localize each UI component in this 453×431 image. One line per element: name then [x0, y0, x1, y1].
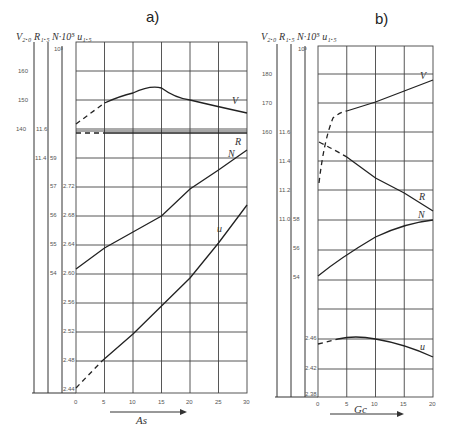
svg-text:170: 170: [262, 100, 273, 106]
svg-text:2.42: 2.42: [305, 365, 317, 371]
svg-text:160: 160: [18, 68, 29, 74]
svg-text:15: 15: [158, 399, 165, 405]
panel-a-axis-header: V₂.₀ R₁.₅ N·10⁵ u₁.₅: [16, 31, 92, 42]
svg-text:5: 5: [345, 401, 349, 407]
svg-text:56: 56: [50, 212, 57, 218]
svg-text:150: 150: [18, 97, 29, 103]
svg-text:0: 0: [74, 399, 78, 405]
svg-text:54: 54: [293, 274, 300, 280]
svg-text:u: u: [420, 341, 425, 352]
svg-text:57: 57: [50, 183, 57, 189]
svg-text:20: 20: [186, 399, 193, 405]
panel-b-xlabel: Gc: [354, 403, 367, 415]
panel-a-exponent: 10³: [54, 46, 63, 52]
panel-b-curve-v: V: [319, 70, 433, 183]
svg-text:140: 140: [16, 126, 27, 132]
svg-text:R: R: [234, 136, 241, 147]
svg-text:10: 10: [129, 399, 136, 405]
panel-b: b) V₂.₀ R₁.₅ N·10⁵ u₁.₅ 10³ 180 170 1: [261, 10, 436, 417]
svg-text:180: 180: [262, 71, 273, 77]
svg-text:11.0: 11.0: [279, 216, 291, 222]
svg-text:V: V: [232, 95, 240, 106]
svg-text:160: 160: [262, 129, 273, 135]
svg-text:N: N: [227, 148, 236, 159]
panel-b-title: b): [375, 10, 388, 27]
svg-text:15: 15: [400, 401, 407, 407]
svg-text:0: 0: [316, 401, 320, 407]
svg-text:2.64: 2.64: [63, 241, 75, 247]
svg-text:2.72: 2.72: [63, 183, 75, 189]
svg-text:20: 20: [429, 401, 436, 407]
svg-text:11.6: 11.6: [36, 126, 48, 132]
panel-a-title: a): [146, 8, 159, 25]
svg-text:54: 54: [50, 270, 57, 276]
svg-text:11.4: 11.4: [279, 158, 291, 164]
panel-a-grid: [76, 42, 247, 393]
panel-b-axis-header: V₂.₀ R₁.₅ N·10⁵ u₁.₅: [261, 31, 337, 42]
panel-a: a) V₂.₀ R₁.₅ N·10⁵ u₁.₅ 10³: [16, 8, 250, 426]
svg-text:55: 55: [50, 241, 57, 247]
svg-text:59: 59: [50, 155, 57, 161]
svg-text:5: 5: [102, 399, 106, 405]
svg-text:N: N: [417, 209, 426, 220]
svg-text:R: R: [418, 191, 425, 202]
svg-text:2.52: 2.52: [63, 328, 75, 334]
svg-text:2.48: 2.48: [63, 357, 75, 363]
svg-text:u: u: [217, 223, 222, 234]
svg-text:2.46: 2.46: [305, 335, 317, 341]
svg-text:2.44: 2.44: [63, 386, 75, 392]
svg-text:2.68: 2.68: [63, 212, 75, 218]
svg-text:56: 56: [293, 245, 300, 251]
panel-a-xlabel: As: [135, 414, 147, 426]
svg-text:2.38: 2.38: [305, 391, 317, 397]
svg-text:2.60: 2.60: [63, 270, 75, 276]
svg-text:2.56: 2.56: [63, 299, 75, 305]
svg-text:11.6: 11.6: [279, 129, 291, 135]
panel-b-grid: [318, 46, 433, 397]
figure-canvas: a) V₂.₀ R₁.₅ N·10⁵ u₁.₅ 10³: [0, 0, 453, 431]
svg-text:11.4: 11.4: [35, 155, 47, 161]
svg-text:10: 10: [371, 401, 378, 407]
panel-b-curve-r: R: [319, 142, 433, 211]
svg-text:11.2: 11.2: [279, 187, 291, 193]
svg-text:25: 25: [215, 399, 222, 405]
svg-text:30: 30: [243, 399, 250, 405]
svg-text:V: V: [420, 70, 428, 81]
svg-text:58: 58: [293, 216, 300, 222]
